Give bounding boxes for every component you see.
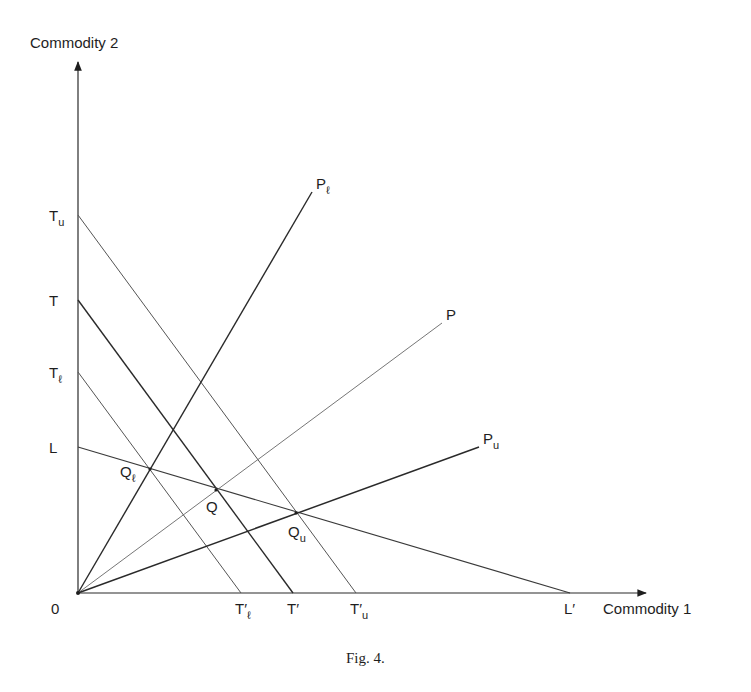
ray-label: P <box>446 306 456 323</box>
intersection-points: QℓQQu <box>76 463 306 595</box>
x-intercept-label: T′ <box>287 600 299 617</box>
ray-p <box>78 323 442 593</box>
line-tl-tl- <box>78 372 241 593</box>
line-tu-tu- <box>78 215 356 593</box>
y-intercept-label: T <box>49 292 58 309</box>
x-intercept-label: T′u <box>350 600 368 621</box>
y-intercept-label: Tu <box>49 207 64 228</box>
line-l-l- <box>78 447 570 593</box>
x-intercept-label: L′ <box>564 600 575 617</box>
ray-pl <box>78 192 312 593</box>
point-label: Qℓ <box>120 463 136 484</box>
ray-label: Pu <box>483 430 499 451</box>
x-intercept-label: T′ℓ <box>235 600 251 621</box>
ray-label: Pℓ <box>316 175 330 196</box>
economics-diagram: TuT′uTT′TℓT′ℓLL′ PℓPPu QℓQQu Commodity 2… <box>0 0 751 692</box>
point-label: Q <box>206 498 218 515</box>
point-qu <box>294 511 297 514</box>
budget-lines: TuT′uTT′TℓT′ℓLL′ <box>49 207 575 621</box>
line-t-t- <box>78 300 293 593</box>
x-axis-label: Commodity 1 <box>603 600 691 617</box>
origin-point <box>76 591 80 595</box>
y-intercept-label: L <box>49 439 57 456</box>
origin-label: 0 <box>51 600 59 617</box>
y-axis-label: Commodity 2 <box>30 34 118 51</box>
point-ql <box>148 467 151 470</box>
point-label: Qu <box>288 523 306 544</box>
figure-caption: Fig. 4. <box>346 650 385 666</box>
point-q <box>214 488 217 491</box>
y-intercept-label: Tℓ <box>49 364 62 385</box>
ray-pu <box>78 447 479 593</box>
